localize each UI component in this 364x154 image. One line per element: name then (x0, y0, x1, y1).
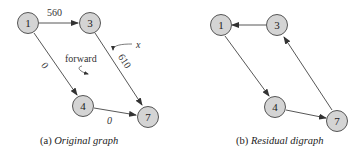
forward-annotation: forward (65, 53, 97, 64)
edge-3-7 (95, 33, 142, 105)
forward-arrow-icon (79, 66, 88, 74)
node-3: 3 (267, 15, 288, 36)
node-1: 1 (211, 15, 232, 36)
edge-label-1-4: 0 (39, 60, 51, 70)
node-1: 1 (18, 13, 39, 34)
x-arrow-icon (113, 44, 132, 50)
caption-original-graph: (a) Original graph (40, 135, 118, 147)
svg-text:4: 4 (272, 101, 278, 113)
figure: 560 0 610 0 forward x 1 3 4 7 (a) Origin… (0, 0, 364, 154)
node-4: 4 (265, 97, 286, 118)
svg-text:1: 1 (25, 17, 31, 29)
svg-text:7: 7 (334, 115, 340, 127)
node-7: 7 (327, 111, 348, 132)
edge-1-4 (225, 36, 269, 96)
svg-text:3: 3 (274, 19, 280, 31)
residual-digraph: 1 3 4 7 (b) Residual digraph (211, 15, 348, 148)
svg-text:4: 4 (80, 100, 86, 112)
node-4: 4 (73, 96, 94, 117)
original-graph: 560 0 610 0 forward x 1 3 4 7 (a) Origin… (18, 7, 159, 147)
caption-residual-digraph: (b) Residual digraph (236, 135, 324, 147)
edge-4-7 (94, 108, 136, 115)
svg-text:1: 1 (218, 19, 224, 31)
edge-1-4 (34, 33, 77, 95)
node-3: 3 (80, 13, 101, 34)
node-7: 7 (138, 107, 159, 128)
x-annotation: x (135, 39, 141, 50)
edge-label-4-7: 0 (107, 115, 112, 126)
edge-label-3-7: 610 (116, 52, 133, 71)
svg-text:7: 7 (145, 111, 151, 123)
edge-label-1-3: 560 (47, 7, 62, 18)
edge-7-3 (284, 37, 332, 110)
edge-4-7 (286, 110, 326, 118)
svg-text:3: 3 (87, 17, 93, 29)
